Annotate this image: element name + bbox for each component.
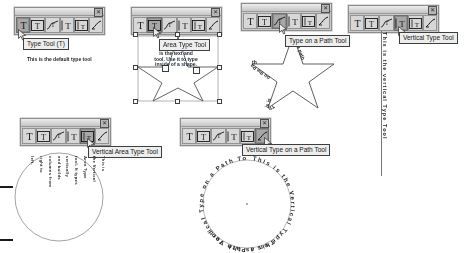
toolbar-titlebar[interactable]: ✕	[15, 8, 104, 16]
vertical-type-on-path-tool-icon[interactable]	[423, 15, 437, 31]
vertical-type-tool-icon[interactable]: T	[226, 128, 240, 144]
toolbar-window[interactable]: ✕ T T T T T	[348, 5, 439, 33]
svg-text:T: T	[415, 20, 420, 28]
type-tool-icon[interactable]: T	[182, 128, 196, 144]
edge-mark	[0, 186, 13, 188]
area-type-tool-icon[interactable]: T	[196, 128, 211, 144]
toolbar-window[interactable]: ✕ T T T T T	[131, 7, 222, 35]
area-type-tool-icon[interactable]: T	[257, 13, 272, 29]
vertical-area-type-tool-icon[interactable]: T	[74, 17, 89, 33]
svg-text:T: T	[292, 17, 298, 27]
close-icon[interactable]: ✕	[94, 8, 103, 17]
vertical-type-sample-text: This is the vertical Type Tool	[381, 32, 387, 174]
svg-text:T: T	[186, 131, 192, 142]
tooltip-vertical-type-tool: Vertical Type Tool	[399, 32, 458, 44]
vertical-type-tool-icon[interactable]: T	[287, 13, 301, 29]
circle-path-artwork: This is the Vertical Type on a Path Tool…	[194, 152, 300, 252]
type-on-path-tool-icon[interactable]: T	[45, 17, 60, 33]
close-icon[interactable]: ✕	[100, 119, 109, 128]
svg-text:T: T	[35, 21, 40, 30]
close-icon[interactable]: ✕	[321, 4, 330, 13]
path-text-segment: on the Path	[249, 59, 271, 81]
toolbar-window[interactable]: ✕ T T T T T	[14, 7, 105, 35]
close-icon[interactable]: ✕	[211, 8, 220, 17]
svg-text:T: T	[262, 17, 267, 26]
vertical-type-tool-icon[interactable]: T	[60, 17, 74, 33]
toolbar-icon-row: T T T T T	[349, 14, 438, 32]
svg-text:T: T	[41, 132, 46, 141]
vertical-text-column: left.	[30, 156, 34, 236]
vertical-type-tool-icon[interactable]: T	[66, 128, 80, 144]
toolbar-icon-row: T T T T T	[21, 127, 110, 145]
svg-text:T: T	[385, 20, 389, 26]
svg-text:T: T	[247, 133, 252, 141]
type-tool-icon[interactable]: T	[350, 15, 364, 31]
toolbar-window[interactable]: ✕ T T T T T	[180, 118, 271, 146]
vertical-area-type-tool-icon[interactable]: T	[301, 13, 316, 29]
svg-text:on the Path: on the Path	[249, 59, 271, 81]
vertical-area-type-tool-icon[interactable]: T	[408, 15, 423, 31]
vertical-type-tool-icon[interactable]: T	[177, 17, 191, 33]
anchor-point[interactable]	[175, 99, 180, 104]
area-type-tool-icon[interactable]: T	[36, 128, 51, 144]
vertical-area-type-tool-icon[interactable]: T	[240, 128, 255, 144]
toolbar-titlebar[interactable]: ✕	[132, 8, 221, 16]
type-on-path-tool-icon[interactable]: T	[51, 128, 66, 144]
area-type-tool-icon[interactable]: T	[30, 17, 45, 33]
svg-text:T: T	[231, 132, 237, 142]
vertical-type-on-path-tool-icon[interactable]	[316, 13, 330, 29]
svg-text:T: T	[217, 133, 221, 139]
vertical-text-column: This is	[100, 156, 104, 236]
edge-mark	[0, 239, 13, 241]
anchor-point[interactable]	[133, 65, 138, 70]
vertical-text-column: and builds	[56, 156, 60, 236]
svg-text:T: T	[369, 19, 374, 28]
type-tool-icon[interactable]: T	[22, 128, 36, 144]
vertical-type-on-path-tool-icon[interactable]	[89, 17, 103, 33]
anchor-point[interactable]	[175, 32, 180, 37]
vertical-text-column: vertically	[65, 156, 69, 236]
anchor-point[interactable]	[133, 32, 138, 37]
vertical-text-column: tool. It types	[74, 156, 78, 236]
tooltip-type-tool: Type Tool (T)	[23, 38, 69, 50]
toolbar-titlebar[interactable]: ✕	[181, 119, 270, 127]
type-on-path-tool-icon[interactable]: T	[211, 128, 226, 144]
toolbar-titlebar[interactable]: ✕	[349, 6, 438, 14]
type-tool-icon[interactable]: T	[243, 13, 257, 29]
area-type-tool-icon[interactable]: T	[364, 15, 379, 31]
area-type-sample-text: is the text and tool. Use it to type ins…	[154, 51, 198, 68]
anchor-point[interactable]	[217, 32, 222, 37]
svg-text:This is: This is	[263, 97, 276, 112]
vertical-text-column: the Vertical	[92, 156, 96, 236]
toolbar-window[interactable]: ✕ T T T T T	[20, 118, 111, 146]
vertical-area-text-block: This is the Vertical Area Type tool. It …	[30, 156, 105, 236]
svg-text:T: T	[308, 18, 313, 26]
caption-type-tool: This is the default type tool	[27, 56, 92, 62]
toolbar-titlebar[interactable]: ✕	[242, 4, 331, 12]
close-icon[interactable]: ✕	[428, 6, 437, 15]
path-text-segment: a path	[296, 45, 306, 61]
vertical-area-type-tool-icon[interactable]: T	[191, 17, 206, 33]
svg-text:T: T	[81, 22, 86, 30]
svg-text:T: T	[26, 131, 32, 142]
svg-text:T: T	[247, 16, 253, 27]
anchor-point[interactable]	[217, 65, 222, 70]
toolbar-icon-row: T T T T T	[181, 127, 270, 145]
anchor-point[interactable]	[133, 99, 138, 104]
vertical-text-column: Area Type	[83, 156, 87, 236]
type-tool-icon[interactable]: T	[133, 17, 147, 33]
vertical-type-on-path-tool-icon[interactable]	[95, 128, 109, 144]
vertical-text-column: columns from	[48, 156, 52, 236]
vertical-text-column: right to	[39, 156, 43, 236]
svg-text:T: T	[71, 132, 77, 142]
vertical-type-on-path-tool-icon[interactable]	[206, 17, 220, 33]
anchor-point[interactable]	[217, 99, 222, 104]
close-icon[interactable]: ✕	[260, 119, 269, 128]
type-on-path-tool-icon[interactable]: T	[379, 15, 394, 31]
toolbar-titlebar[interactable]: ✕	[21, 119, 110, 127]
anchor-point[interactable]	[193, 67, 200, 74]
svg-text:T: T	[182, 21, 188, 31]
type-on-path-tool-icon[interactable]: T	[162, 17, 177, 33]
page-root: { "document": { "title": "Illustrator Ty…	[0, 0, 470, 253]
svg-text:T: T	[354, 18, 360, 29]
